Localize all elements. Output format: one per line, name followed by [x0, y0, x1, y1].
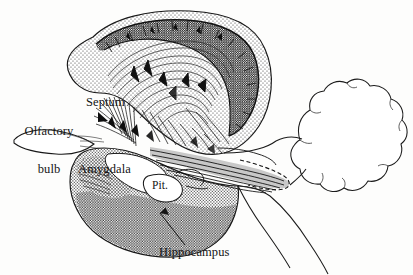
label-hippocampus: Hippocampus [159, 246, 230, 259]
cerebellum [291, 79, 407, 191]
label-amygdala: Amygdala [78, 163, 131, 176]
label-pituitary: Pit. [152, 180, 168, 192]
label-septum: Septum [86, 96, 125, 109]
brainstem-descending-curve [238, 186, 328, 274]
label-olfactory-bulb-line1: Olfactory [12, 125, 86, 138]
figure-page: Olfactory bulb Septum Amygdala Pit. Hipp… [0, 0, 413, 275]
label-olfactory-bulb-line2: bulb [12, 163, 86, 176]
label-olfactory-bulb: Olfactory bulb [12, 99, 86, 202]
